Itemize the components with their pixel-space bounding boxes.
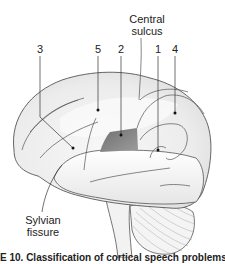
central-sulcus-label-line1: Central	[125, 13, 169, 25]
temporal-lobe	[54, 150, 204, 204]
area-2-label: 2	[115, 43, 127, 55]
central-sulcus-label-line2: sulcus	[125, 25, 169, 37]
area-3-label: 3	[34, 43, 46, 55]
area-1-label: 1	[152, 43, 164, 55]
sylvian-fissure-label-line2: fissure	[20, 226, 66, 238]
brainstem	[106, 200, 132, 258]
sylvian-fissure-label-line1: Sylvian	[20, 214, 66, 226]
central-sulcus-label: Central sulcus	[125, 13, 169, 37]
cerebellum	[130, 203, 195, 255]
sylvian-fissure-label: Sylvian fissure	[20, 214, 66, 238]
area-5-label: 5	[92, 43, 104, 55]
area-4-label: 4	[169, 43, 181, 55]
figure-caption: E 10. Classification of cortical speech …	[0, 252, 225, 264]
